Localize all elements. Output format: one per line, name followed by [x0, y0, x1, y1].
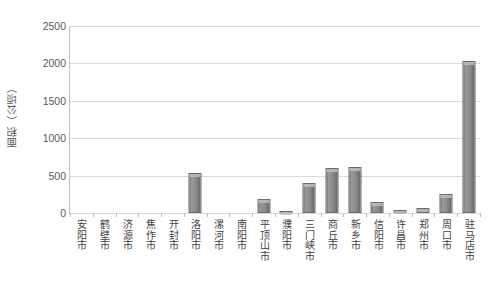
bar-chart: 面积（公顷） 25002000150010005000 安阳市鹤壁市济源市焦作市… [0, 0, 496, 286]
y-axis-tick-label: 500 [28, 171, 66, 181]
bar[interactable] [371, 202, 384, 213]
x-axis-tick-label: 鹤壁市 [93, 219, 116, 251]
bar-slot [184, 26, 207, 213]
x-axis-tick-mark [252, 213, 253, 217]
x-axis-tick-label: 焦作市 [138, 219, 161, 251]
x-axis-tick-label: 驻马店市 [457, 219, 480, 261]
x-axis-tick-label-text: 济源市 [121, 219, 132, 251]
bar-slot [343, 26, 366, 213]
bar[interactable] [417, 208, 430, 213]
bar-slot [161, 26, 184, 213]
x-axis-tick-mark [343, 213, 344, 217]
bar-slot [229, 26, 252, 213]
bar-slot [138, 26, 161, 213]
bar[interactable] [394, 210, 407, 213]
bar-slot [70, 26, 93, 213]
x-axis-tick-label: 南阳市 [229, 219, 252, 251]
x-axis-tick-mark [70, 213, 71, 217]
plot-area [70, 26, 480, 213]
x-axis-tick-mark [321, 213, 322, 217]
x-axis-tick-label-text: 许昌市 [395, 219, 406, 251]
x-axis-tick-label: 开封市 [161, 219, 184, 251]
bar-slot [252, 26, 275, 213]
x-axis-tick-label-text: 鹤壁市 [99, 219, 110, 251]
x-axis-tick-mark [184, 213, 185, 217]
x-axis-tick-mark [138, 213, 139, 217]
x-axis-tick-label-text: 开封市 [167, 219, 178, 251]
x-axis-tick-label-text: 洛阳市 [190, 219, 201, 251]
x-axis-tick-mark [389, 213, 390, 217]
x-axis-tick-label: 新乡市 [343, 219, 366, 251]
x-axis-tick-label-text: 三门峡市 [304, 219, 315, 261]
x-axis-tick-label-text: 濮阳市 [281, 219, 292, 251]
x-axis-tick-mark [457, 213, 458, 217]
bar[interactable] [280, 211, 293, 213]
x-axis-tick-mark [207, 213, 208, 217]
x-axis-tick-label-text: 安阳市 [76, 219, 87, 251]
x-axis-tick-mark [93, 213, 94, 217]
x-axis-tick-label-text: 漯河市 [212, 219, 223, 251]
x-axis-tick-mark [229, 213, 230, 217]
x-axis-tick-mark [298, 213, 299, 217]
x-axis-tick-label: 许昌市 [389, 219, 412, 251]
x-axis-tick-mark [161, 213, 162, 217]
x-axis-tick-label: 信阳市 [366, 219, 389, 251]
x-axis-tick-label-text: 焦作市 [144, 219, 155, 251]
x-axis-tick-label-text: 郑州市 [417, 219, 428, 251]
bar-slot [275, 26, 298, 213]
bar-slot [457, 26, 480, 213]
bar-slot [93, 26, 116, 213]
x-axis-tick-label: 商丘市 [321, 219, 344, 251]
bar[interactable] [325, 168, 338, 213]
bar-slot [366, 26, 389, 213]
bar[interactable] [348, 167, 361, 213]
x-axis-tick-label-text: 驻马店市 [463, 219, 474, 261]
x-axis-tick-label: 郑州市 [412, 219, 435, 251]
x-axis-tick-mark [480, 213, 481, 217]
bar-slot [298, 26, 321, 213]
x-axis-tick-labels: 安阳市鹤壁市济源市焦作市开封市洛阳市漯河市南阳市平顶山市濮阳市三门峡市商丘市新乡… [70, 219, 480, 286]
x-axis-tick-label: 三门峡市 [298, 219, 321, 261]
x-axis-tick-mark [275, 213, 276, 217]
bar-slot [389, 26, 412, 213]
bar-slot [434, 26, 457, 213]
x-axis-tick-label: 漯河市 [207, 219, 230, 251]
bar-slot [412, 26, 435, 213]
bar[interactable] [303, 183, 316, 213]
x-axis-tick-mark [116, 213, 117, 217]
y-axis-tick-label: 0 [28, 208, 66, 218]
bar[interactable] [439, 194, 452, 213]
x-axis-tick-label: 平顶山市 [252, 219, 275, 261]
x-axis-tick-label: 洛阳市 [184, 219, 207, 251]
x-axis-tick-label: 濮阳市 [275, 219, 298, 251]
bar[interactable] [462, 61, 475, 213]
y-axis-tick-label: 1000 [28, 133, 66, 143]
bar-slot [207, 26, 230, 213]
x-axis-tick-label-text: 商丘市 [326, 219, 337, 251]
bar-slot [116, 26, 139, 213]
x-axis-tick-label-text: 周口市 [440, 219, 451, 251]
x-axis-tick-mark [412, 213, 413, 217]
y-axis-tick-label: 2000 [28, 58, 66, 68]
x-axis-tick-label-text: 信阳市 [372, 219, 383, 251]
x-axis-tick-label-text: 平顶山市 [258, 219, 269, 261]
bar[interactable] [257, 199, 270, 213]
x-axis-tick-label-text: 新乡市 [349, 219, 360, 251]
bar[interactable] [189, 173, 202, 213]
y-axis-tick-label: 2500 [28, 21, 66, 31]
x-axis-tick-label: 济源市 [116, 219, 139, 251]
x-axis-tick-mark [366, 213, 367, 217]
y-axis-title: 面积（公顷） [2, 18, 22, 213]
x-axis-tick-mark [434, 213, 435, 217]
x-axis-tick-label: 安阳市 [70, 219, 93, 251]
y-axis-tick-label: 1500 [28, 96, 66, 106]
x-axis-tick-label-text: 南阳市 [235, 219, 246, 251]
bar-slot [321, 26, 344, 213]
x-axis-tick-label: 周口市 [434, 219, 457, 251]
y-axis-tick-labels: 25002000150010005000 [22, 0, 66, 286]
